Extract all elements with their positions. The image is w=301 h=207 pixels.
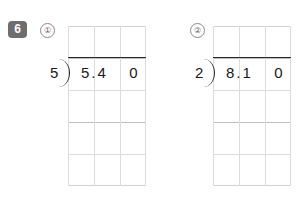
problem-marker-1: ① — [40, 23, 55, 38]
long-division-bracket-icon — [59, 57, 68, 87]
exercise-number-badge: 6 — [8, 21, 27, 38]
grid-line-horizontal — [68, 122, 146, 123]
grid-line-vertical — [213, 26, 214, 186]
grid-line-vertical — [120, 26, 121, 186]
grid-line-vertical — [265, 26, 266, 186]
dividend-main: 5.4 — [68, 58, 120, 87]
grid-line-horizontal — [68, 26, 146, 27]
grid-line-vertical — [290, 26, 291, 186]
division-problem-2: 2 8.1 0 — [195, 56, 291, 88]
dividend-trailing-zero: 0 — [120, 58, 146, 87]
long-division-bracket-icon — [204, 57, 213, 87]
grid-line-horizontal — [213, 122, 291, 123]
grid-line-horizontal — [213, 90, 291, 91]
dividend-main: 8.1 — [213, 58, 265, 87]
answer-grid-2[interactable] — [213, 26, 291, 186]
grid-line-horizontal — [213, 185, 291, 186]
dividend-trailing-zero: 0 — [265, 58, 291, 87]
dividend-value: 8.1 0 — [213, 57, 291, 87]
grid-line-horizontal — [213, 26, 291, 27]
grid-line-vertical — [145, 26, 146, 186]
grid-line-horizontal — [68, 90, 146, 91]
worksheet-page: 6 ① 5 5.4 0 ② — [0, 0, 301, 207]
division-problem-1: 5 5.4 0 — [50, 56, 146, 88]
grid-line-horizontal — [68, 185, 146, 186]
grid-line-vertical — [239, 26, 240, 186]
grid-line-vertical — [68, 26, 69, 186]
problem-marker-2: ② — [190, 23, 205, 38]
dividend-value: 5.4 0 — [68, 57, 146, 87]
grid-line-horizontal — [213, 154, 291, 155]
grid-line-horizontal — [68, 154, 146, 155]
grid-line-vertical — [94, 26, 95, 186]
answer-grid-1[interactable] — [68, 26, 146, 186]
